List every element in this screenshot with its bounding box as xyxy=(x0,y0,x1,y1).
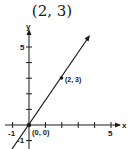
vector-arrow-icon xyxy=(85,35,91,42)
point-label-2-3: (2, 3) xyxy=(65,76,81,84)
x-axis-label: x xyxy=(122,121,127,130)
y-tick-label-5: 5 xyxy=(20,43,25,52)
y-axis-label: y xyxy=(26,22,31,31)
origin-label: (0, 0) xyxy=(32,128,50,137)
x-axis-arrow-icon xyxy=(115,123,121,128)
coordinate-plane: y x 5 -1 -1 5 (0, 0) (2, 3) xyxy=(0,0,132,149)
y-tick-label-neg1: -1 xyxy=(17,136,25,145)
origin-point xyxy=(27,123,31,127)
x-tick-label-5: 5 xyxy=(108,129,113,138)
x-tick-label-neg1: -1 xyxy=(8,129,16,138)
vector-line xyxy=(12,38,88,149)
point-2-3 xyxy=(60,76,64,80)
